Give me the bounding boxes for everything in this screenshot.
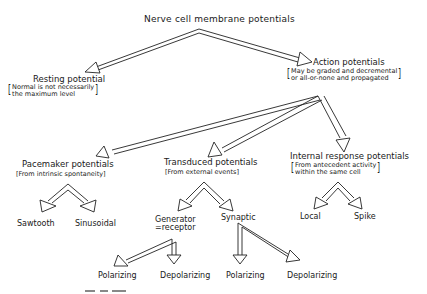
sinusoidal-node: Sinusoidal — [75, 220, 116, 228]
internal-note: [ From antecedent activitywithin the sam… — [290, 162, 381, 177]
arrow-action-to-pacemaker — [96, 96, 320, 158]
caption-partial — [85, 290, 126, 292]
transduced-note: [From external events] — [165, 169, 239, 176]
arrow-synaptic-children — [233, 223, 300, 264]
action-title: Action potentials — [313, 58, 385, 67]
arrow-action-to-internal — [318, 96, 350, 152]
generator-polarizing-node: Polarizing — [98, 272, 137, 280]
pacemaker-title: Pacemaker potentials — [22, 160, 114, 169]
internal-title: Internal response potentials — [290, 152, 409, 161]
generator-node: Generator=receptor — [155, 216, 196, 233]
resting-note: [ Normal is not necessarilythe maximum l… — [7, 84, 99, 99]
transduced-title: Transduced potentials — [164, 158, 257, 167]
arrow-pacemaker-children — [40, 184, 96, 212]
arrow-transduced-children — [178, 182, 233, 211]
synaptic-polarizing-node: Polarizing — [226, 272, 265, 280]
action-note: [ May be graded and decrementalor all-or… — [286, 68, 402, 83]
arrow-generator-children — [114, 239, 181, 266]
spike-node: Spike — [354, 213, 376, 221]
pacemaker-note: [From intrinsic spontaneity] — [16, 171, 106, 178]
generator-depolarizing-node: Depolarizing — [160, 272, 210, 280]
synaptic-node: Synaptic — [221, 214, 256, 222]
arrow-root-to-action — [199, 29, 312, 66]
arrow-internal-children — [314, 182, 362, 209]
sawtooth-node: Sawtooth — [17, 220, 55, 228]
synaptic-depolarizing-node: Depolarizing — [287, 272, 337, 280]
arrow-root-to-resting — [85, 29, 199, 73]
local-node: Local — [300, 213, 321, 221]
root-node: Nerve cell membrane potentials — [144, 15, 295, 24]
arrow-action-to-transduced — [208, 96, 322, 157]
arrows-layer — [0, 0, 427, 294]
